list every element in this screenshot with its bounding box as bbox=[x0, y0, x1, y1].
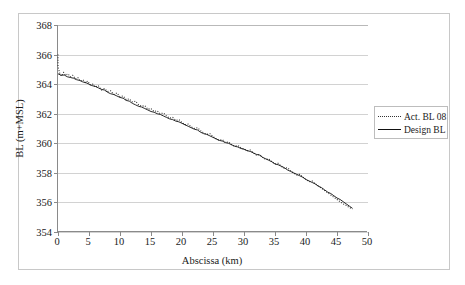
x-tick-label: 5 bbox=[85, 236, 90, 247]
x-tick-label: 10 bbox=[114, 236, 125, 247]
x-tick-label: 15 bbox=[145, 236, 156, 247]
y-tick-label: 360 bbox=[36, 138, 52, 149]
legend-label: Act. BL 08 bbox=[404, 112, 446, 122]
y-tick-label: 366 bbox=[36, 49, 52, 60]
legend-item-act-bl-08: Act. BL 08 bbox=[378, 110, 444, 123]
plot-wrapper: 354356358360362364366368 051015202530354… bbox=[0, 0, 465, 285]
x-tick-label: 45 bbox=[331, 236, 342, 247]
x-tick-label: 40 bbox=[300, 236, 311, 247]
dotted-line-swatch-icon bbox=[378, 112, 401, 122]
x-tick-label: 20 bbox=[176, 236, 187, 247]
x-tick-label: 25 bbox=[207, 236, 218, 247]
x-tick-label: 35 bbox=[269, 236, 280, 247]
x-axis-title: Abscissa (km) bbox=[57, 255, 367, 266]
legend-label: Design BL bbox=[404, 125, 445, 135]
y-axis-title: BL (m+MSL) bbox=[14, 25, 25, 232]
y-tick-label: 356 bbox=[36, 197, 52, 208]
series-path bbox=[58, 55, 353, 210]
y-tick-label: 364 bbox=[36, 79, 52, 90]
chart-figure: 354356358360362364366368 051015202530354… bbox=[0, 0, 465, 285]
x-axis-tick-labels: 05101520253035404550 bbox=[0, 236, 465, 250]
plot-area bbox=[57, 25, 367, 232]
x-tick-label: 0 bbox=[54, 236, 59, 247]
legend-item-design-bl: Design BL bbox=[378, 123, 444, 136]
x-tick-label: 50 bbox=[362, 236, 373, 247]
series-path bbox=[58, 74, 353, 209]
y-tick-label: 362 bbox=[36, 108, 52, 119]
y-tick-label: 358 bbox=[36, 167, 52, 178]
legend: Act. BL 08 Design BL bbox=[374, 106, 448, 139]
x-tick-label: 30 bbox=[238, 236, 249, 247]
series-lines bbox=[58, 25, 368, 232]
solid-line-swatch-icon bbox=[378, 125, 401, 135]
y-tick-label: 368 bbox=[36, 20, 52, 31]
